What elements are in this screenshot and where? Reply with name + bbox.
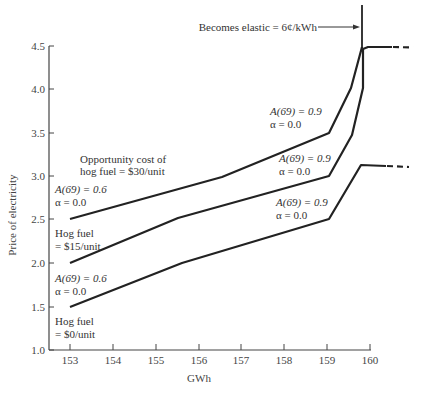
a69-label-top-right: A(69) = 0.9 (269, 105, 322, 118)
hog-fuel-0-label-1: Hog fuel (55, 315, 94, 327)
alpha-label-middle-left: α = 0.0 (55, 285, 87, 297)
y-axis-title: Price of electricity (6, 174, 18, 256)
x-axis-title: GWh (187, 372, 211, 384)
series-dashed-15-per-unit (393, 47, 413, 48)
y-tick-label: 1.0 (31, 344, 45, 356)
y-tick-label: 3.5 (31, 127, 45, 139)
x-tick-label: 156 (191, 354, 208, 366)
x-tick-label: 155 (148, 354, 165, 366)
price-vs-gwh-chart: 1.0 1.5 2.0 2.5 3.0 3.5 4.0 4.5 153 154 … (0, 0, 422, 395)
a69-label-middle-right: A(69) = 0.9 (278, 152, 331, 165)
alpha-label-middle-right: α = 0.0 (279, 165, 311, 177)
hog-fuel-15-label-2: = $15/unit (55, 240, 101, 252)
x-tick-label: 157 (233, 354, 250, 366)
y-tick-label: 4.5 (31, 40, 45, 52)
opp-cost-label-1: Opportunity cost of (80, 153, 166, 165)
alpha-label-bottom-right: α = 0.0 (276, 209, 308, 221)
x-tick-label: 160 (362, 354, 379, 366)
x-tick-label: 153 (62, 354, 79, 366)
series-line-30-per-unit (70, 47, 362, 219)
a69-label-bottom-right: A(69) = 0.9 (275, 196, 328, 209)
opp-cost-label-2: hog fuel = $30/unit (80, 165, 165, 177)
y-tick-label: 4.0 (31, 83, 45, 95)
y-tick-label: 1.5 (31, 301, 45, 313)
x-tick-label: 154 (105, 354, 122, 366)
elastic-annotation: Becomes elastic = 6¢/kWh (199, 21, 318, 33)
x-tick-labels: 153 154 155 156 157 158 159 160 (62, 354, 379, 366)
x-tick-label: 159 (319, 354, 336, 366)
series-dashed-0-per-unit (387, 166, 409, 167)
y-tick-label: 2.0 (31, 257, 45, 269)
arrow-head-icon (353, 25, 360, 30)
y-tick-label: 2.5 (31, 213, 45, 225)
hog-fuel-0-label-2: = $0/unit (55, 328, 95, 340)
alpha-label-top-right: α = 0.0 (270, 118, 302, 130)
y-tick-label: 3.0 (31, 170, 45, 182)
hog-fuel-15-label-1: Hog fuel (55, 227, 94, 239)
y-tick-labels: 1.0 1.5 2.0 2.5 3.0 3.5 4.0 4.5 (31, 40, 45, 356)
a69-label-middle-left: A(69) = 0.6 (54, 272, 107, 285)
series-line-0-per-unit (70, 165, 386, 307)
a69-label-top-left: A(69) = 0.6 (54, 183, 107, 196)
x-ticks (70, 344, 370, 350)
y-ticks (49, 46, 54, 350)
alpha-label-top-left: α = 0.0 (55, 196, 87, 208)
x-tick-label: 158 (276, 354, 293, 366)
